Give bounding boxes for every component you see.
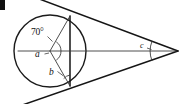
angle-arc-center-upper [56, 42, 61, 51]
angle-arc-center-lower [56, 51, 61, 60]
lower-tangent-line [8, 51, 178, 104]
leader-angle-upper [48, 37, 53, 42]
leader-angle-a [45, 53, 50, 54]
upper-tangent-line [18, 0, 178, 51]
geometry-figure: 70° a b c [0, 0, 183, 104]
label-angle-70-degrees: 70° [31, 28, 44, 38]
label-angle-a: a [35, 50, 40, 60]
label-angle-c: c [140, 42, 144, 50]
figure-canvas [0, 0, 183, 104]
label-angle-b: b [49, 68, 54, 78]
leader-angle-c [147, 48, 152, 50]
